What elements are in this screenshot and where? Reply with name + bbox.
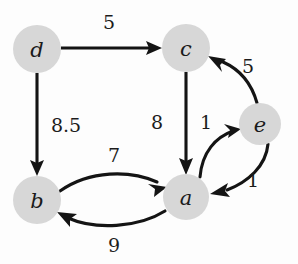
node-e-label: e bbox=[254, 113, 266, 137]
edge-a-to-b bbox=[57, 211, 165, 227]
node-c-label: c bbox=[180, 37, 192, 61]
edge-weight-e-to-a: 1 bbox=[247, 171, 259, 190]
node-b-label: b bbox=[30, 189, 43, 213]
node-b[interactable]: b bbox=[13, 176, 61, 224]
node-c[interactable]: c bbox=[162, 24, 210, 72]
edge-d-to-c bbox=[61, 41, 162, 55]
edge-b-to-a bbox=[60, 174, 167, 197]
edge-e-to-a bbox=[210, 144, 268, 197]
edge-weight-b-to-a: 7 bbox=[108, 146, 120, 165]
node-a-label: a bbox=[180, 186, 193, 210]
edge-weight-a-to-b: 9 bbox=[108, 236, 120, 255]
edge-weight-a-to-e: 1 bbox=[200, 113, 212, 132]
edge-weight-e-to-c: 5 bbox=[242, 57, 254, 76]
node-a[interactable]: a bbox=[163, 174, 209, 220]
node-d-label: d bbox=[30, 38, 43, 62]
edge-e-to-c-arrowhead bbox=[208, 56, 226, 72]
graph-figure: d c e b a 5 8.5 8 1 1 5 7 9 bbox=[0, 0, 298, 264]
edge-weight-c-to-a: 8 bbox=[151, 113, 163, 132]
edge-a-to-b-curve bbox=[68, 211, 165, 226]
node-d[interactable]: d bbox=[13, 25, 61, 73]
edge-weight-d-to-c: 5 bbox=[103, 13, 115, 32]
edge-a-to-e-arrowhead bbox=[224, 124, 241, 138]
edge-d-to-b bbox=[30, 73, 44, 176]
edge-weight-d-to-b: 8.5 bbox=[51, 116, 81, 135]
node-e[interactable]: e bbox=[239, 103, 281, 145]
edge-b-to-a-curve bbox=[60, 174, 157, 191]
edge-c-to-a bbox=[179, 72, 193, 175]
graph-canvas: d c e b a bbox=[0, 0, 298, 264]
